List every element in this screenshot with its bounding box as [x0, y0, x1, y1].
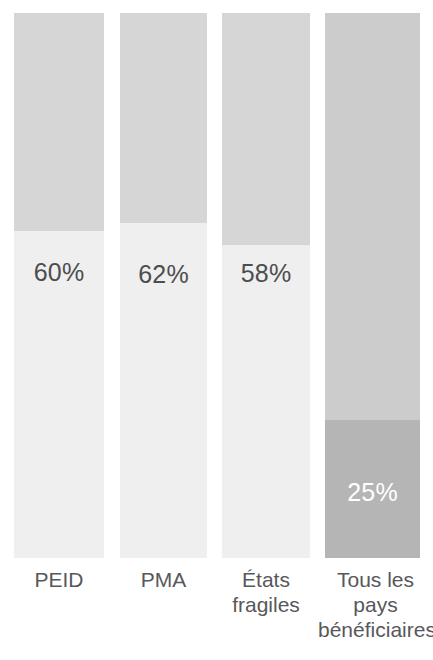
bar-tous-les-pays-beneficiaires[interactable]: 25% — [325, 13, 420, 558]
bar-segment-lower: 58% — [222, 245, 310, 558]
axis-label-tous-les-pays-beneficiaires: Tous les pays bénéficiaires — [318, 567, 433, 642]
bar-stack: 62% — [120, 13, 207, 558]
bar-stack: 25% — [325, 13, 420, 558]
bar-value-label: 62% — [120, 262, 207, 287]
axis-label-pma: PMA — [112, 567, 215, 592]
axis-label-etats-fragiles: États fragiles — [214, 567, 318, 617]
bar-segment-upper — [325, 13, 420, 420]
bar-stack: 60% — [14, 13, 104, 558]
bar-value-label: 60% — [14, 260, 104, 285]
bar-segment-upper — [222, 13, 310, 245]
bar-segment-lower: 25% — [325, 420, 420, 558]
stacked-bar-chart: 60% 62% 58% — [0, 0, 433, 660]
plot-area: 60% 62% 58% — [0, 0, 433, 660]
bar-pma[interactable]: 62% — [120, 13, 207, 558]
bar-segment-upper — [120, 13, 207, 223]
bar-stack: 58% — [222, 13, 310, 558]
bar-value-label: 58% — [222, 261, 310, 286]
bar-etats-fragiles[interactable]: 58% — [222, 13, 310, 558]
bar-value-label: 25% — [325, 480, 420, 505]
bar-peid[interactable]: 60% — [14, 13, 104, 558]
bar-segment-upper — [14, 13, 104, 231]
bar-segment-lower: 62% — [120, 223, 207, 558]
bar-segment-lower: 60% — [14, 231, 104, 558]
axis-label-peid: PEID — [4, 567, 114, 592]
